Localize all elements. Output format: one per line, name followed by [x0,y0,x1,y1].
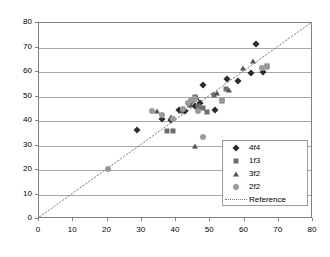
data-point-circle [180,106,186,112]
y-axis-tick-label: 50 [2,92,32,100]
x-axis-tick-label: 60 [232,226,256,234]
data-point-circle [195,108,201,114]
legend-item-3f2[interactable]: 3f2 [223,167,307,180]
x-axis-tick-mark [175,218,176,221]
legend-item-4f4[interactable]: 4f4 [223,141,307,154]
y-axis-tick-label: 20 [2,165,32,173]
data-point-circle [264,64,270,70]
scatter-chart: 01020304050607080 01020304050607080 4f41… [0,0,330,257]
legend-marker-triangle-icon [223,167,249,180]
data-point-triangle [233,171,239,176]
data-point-square [204,110,209,115]
y-axis-tick-label: 10 [2,190,32,198]
y-axis-tick-label: 60 [2,67,32,75]
legend-marker-square-icon [223,154,249,167]
legend-label: 2f2 [249,182,260,191]
legend-label: 4f4 [249,143,260,152]
x-axis-tick-label: 0 [26,226,50,234]
x-axis-tick-mark [141,218,142,221]
y-axis-tick-label: 70 [2,43,32,51]
legend-reference-line-icon [223,193,249,206]
legend-item-2f2[interactable]: 2f2 [223,180,307,193]
x-axis-tick-mark [38,218,39,221]
data-point-circle [192,96,198,102]
data-point-diamond [232,144,239,151]
x-axis-tick-label: 50 [197,226,221,234]
data-point-triangle [240,66,246,71]
data-point-triangle [214,90,220,95]
y-axis-tick-label: 40 [2,116,32,124]
data-point-circle [233,184,239,190]
x-axis-tick-label: 80 [300,226,324,234]
x-axis-tick-label: 30 [129,226,153,234]
x-axis-tick-mark [312,218,313,221]
data-point-triangle [226,88,232,93]
y-axis-tick-label: 0 [2,214,32,222]
data-point-triangle [192,143,198,148]
data-point-square [234,158,239,163]
data-point-square [170,128,175,133]
legend-marker-circle-icon [223,180,249,193]
legend-item-reference[interactable]: Reference [223,193,307,206]
data-point-triangle [250,58,256,63]
legend: 4f41f33f22f2Reference [222,140,308,206]
data-point-circle [170,116,176,122]
data-point-circle [105,166,111,172]
y-axis-tick-label: 30 [2,141,32,149]
x-axis-tick-mark [72,218,73,221]
x-axis-tick-label: 20 [95,226,119,234]
reference-dash [225,199,247,200]
data-point-circle [159,112,165,118]
data-point-circle [219,97,225,103]
x-axis-tick-label: 40 [163,226,187,234]
legend-label: Reference [249,195,286,204]
data-point-circle [200,134,206,140]
x-axis-tick-label: 70 [266,226,290,234]
x-axis-tick-mark [107,218,108,221]
legend-marker-diamond-icon [223,141,249,154]
data-point-circle [149,108,155,114]
x-axis-tick-mark [278,218,279,221]
y-axis-tick-label: 80 [2,18,32,26]
x-axis-tick-mark [244,218,245,221]
legend-item-1f3[interactable]: 1f3 [223,154,307,167]
legend-label: 3f2 [249,169,260,178]
legend-label: 1f3 [249,156,260,165]
x-axis-tick-label: 10 [60,226,84,234]
x-axis-tick-mark [209,218,210,221]
